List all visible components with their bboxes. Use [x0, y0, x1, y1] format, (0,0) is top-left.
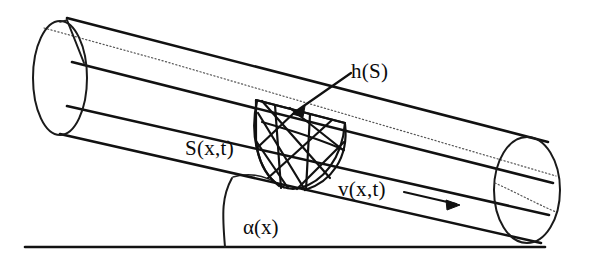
right-end-cap-group	[494, 137, 560, 243]
angle-arc	[223, 178, 232, 247]
pipe-body-group	[44, 18, 556, 243]
right-cap-ellipse	[494, 137, 560, 243]
label-cross-section: S(x,t)	[185, 136, 234, 160]
label-inclination-angle: α(x)	[243, 215, 279, 239]
right-cap-surface-chord	[495, 183, 556, 212]
label-velocity: v(x,t)	[338, 177, 386, 201]
label-water-depth: h(S)	[351, 59, 388, 83]
pipe-flow-diagram: h(S) S(x,t) v(x,t) α(x)	[0, 0, 591, 265]
angle-arc-secondary	[233, 175, 284, 188]
left-cap-ellipse	[33, 21, 87, 135]
velocity-arrow-group	[404, 192, 460, 210]
cross-section-rib-1	[275, 105, 281, 188]
pipe-hidden-axis-dotted	[44, 28, 556, 176]
left-end-cap-group	[33, 20, 87, 135]
velocity-arrowhead	[446, 200, 460, 210]
figure-canvas: h(S) S(x,t) v(x,t) α(x)	[0, 0, 591, 265]
